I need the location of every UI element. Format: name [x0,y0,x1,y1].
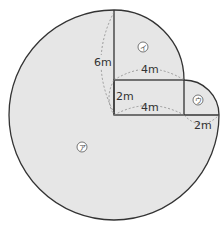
label-6m: 6m [94,56,112,69]
label-4m-bottom: 4m [141,101,159,114]
label-2m-right: 2m [194,119,212,132]
svg-text:ウ: ウ [195,97,202,105]
diagram: 6m 4m 2m 4m 2m イ ウ ア [0,0,223,228]
region-u-marker: ウ [193,95,203,105]
svg-text:イ: イ [140,44,147,52]
label-4m-top: 4m [141,63,159,76]
label-2m-left: 2m [116,90,134,103]
region-a-marker: ア [77,142,87,152]
region-i-marker: イ [138,42,148,52]
svg-text:ア: ア [79,144,86,152]
